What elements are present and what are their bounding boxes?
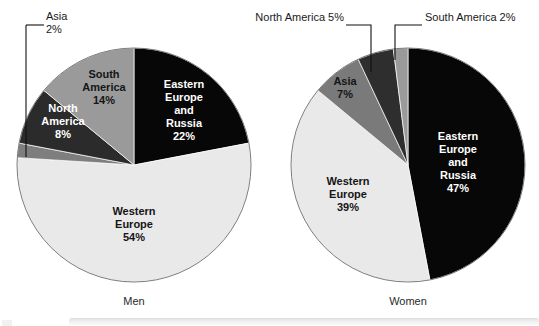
page-edge-artifact-left <box>2 320 12 326</box>
pie-chart-men: EasternEuropeandRussia22% WesternEurope5… <box>17 10 251 307</box>
callout-label-women-south-america: South America 2% <box>425 11 516 23</box>
pie-charts-figure: EasternEuropeandRussia22% WesternEurope5… <box>0 0 539 326</box>
page-edge-artifact <box>69 318 539 326</box>
callout-label-women-north-america: North America 5% <box>255 11 344 23</box>
charts-svg: EasternEuropeandRussia22% WesternEurope5… <box>0 0 539 326</box>
chart-caption-men: Men <box>123 295 144 307</box>
pie-chart-women: EasternEuropeandRussia47% WesternEurope3… <box>255 11 525 307</box>
pie-slices-men <box>17 48 251 282</box>
callout-label-men-asia: Asia2% <box>46 10 68 35</box>
pie-slices-women <box>291 48 525 282</box>
chart-caption-women: Women <box>389 295 427 307</box>
